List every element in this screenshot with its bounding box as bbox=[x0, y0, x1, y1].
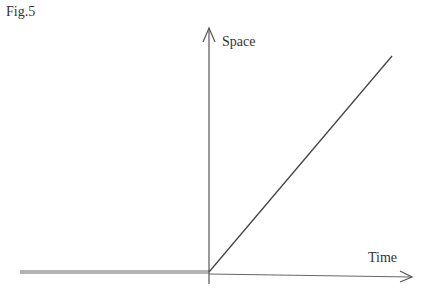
diagram-canvas bbox=[0, 0, 436, 302]
space-axis bbox=[203, 28, 215, 284]
time-axis bbox=[209, 271, 412, 282]
trajectory-line bbox=[209, 56, 392, 272]
flat-baseline bbox=[20, 271, 209, 273]
